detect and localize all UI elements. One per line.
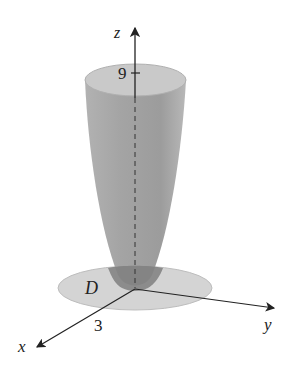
x-axis-label: x (17, 337, 26, 356)
region-label: D (84, 278, 98, 298)
y-axis-label: y (262, 315, 272, 334)
z-axis-label: z (113, 24, 121, 41)
paraboloid-diagram: 9 z y x 3 D (0, 0, 299, 376)
x-tick-label: 3 (94, 316, 103, 335)
z-tick-label: 9 (118, 64, 127, 83)
